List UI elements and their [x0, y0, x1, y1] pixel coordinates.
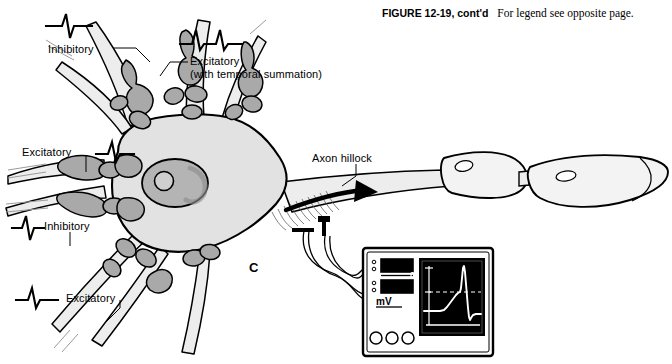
knob-2 [386, 332, 398, 344]
caption-legend-note: For legend see opposite page. [488, 7, 633, 19]
neuron-diagram-artwork [0, 0, 672, 364]
screen-ytick-90: 90 [404, 311, 414, 321]
label-inhibitory-left: Inhibitory [44, 221, 90, 232]
waveform-icon-inhibitory-top [46, 14, 92, 38]
label-excitatory-bottom: Excitatory [66, 293, 115, 304]
label-excitatory-left: Excitatory [22, 147, 71, 158]
label-excitatory-temporal-line2: (with temporal summation) [190, 69, 322, 80]
label-excitatory-temporal-line1: Excitatory [190, 55, 239, 67]
screen-ytick-0: 0 [410, 270, 415, 280]
screen-ytick-50: 50 [404, 292, 414, 302]
screen-xaxis-label: Time [434, 341, 456, 352]
figure-caption: FIGURE 12-19, cont'dFor legend see oppos… [382, 7, 634, 19]
soma-group [112, 114, 286, 251]
nucleolus [155, 172, 174, 191]
label-axon-hillock: Axon hillock [312, 153, 372, 164]
myelin-segment-1 [441, 152, 527, 198]
myelin-segment-2 [528, 155, 668, 207]
knob-3 [402, 332, 414, 344]
label-inhibitory-top: Inhibitory [48, 44, 94, 55]
monitor-knobs [370, 332, 414, 344]
figure-container: FIGURE 12-19, cont'dFor legend see oppos… [0, 0, 672, 364]
recording-electrodes [292, 216, 366, 299]
display-window-1 [381, 259, 413, 272]
waveform-icon-inhibitory-left [12, 216, 44, 240]
label-excitatory-temporal-summation: Excitatory (with temporal summation) [190, 56, 322, 80]
waveform-icon-excitatory-bottom [16, 288, 58, 308]
monitor-mv-label: mV [376, 296, 392, 307]
knob-1 [370, 332, 382, 344]
panel-letter-c: C [249, 261, 258, 274]
caption-figure-number: FIGURE 12-19, cont'd [382, 7, 488, 19]
